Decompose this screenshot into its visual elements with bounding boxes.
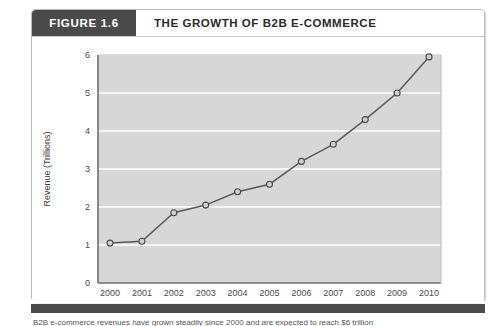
figure-caption-clipped: B2B e-commerce revenues have grown stead… <box>33 318 483 326</box>
data-point-marker <box>171 210 177 216</box>
figure-number-label: FIGURE 1.6 <box>49 17 119 29</box>
x-axis-tick-labels: 2000200120022003200420052006200720082009… <box>100 288 439 298</box>
x-tick-label: 2010 <box>419 288 439 298</box>
x-tick-label: 2009 <box>387 288 407 298</box>
x-tick-label: 2008 <box>355 288 375 298</box>
x-tick-label: 2002 <box>164 288 184 298</box>
data-point-marker <box>426 54 432 60</box>
figure-caption-text: B2B e-commerce revenues have grown stead… <box>33 318 483 326</box>
line-chart: 0123456 20002001200220032004200520062007… <box>32 37 484 303</box>
data-point-marker <box>139 238 145 244</box>
x-tick-label: 2006 <box>291 288 311 298</box>
data-point-marker <box>235 189 241 195</box>
y-tick-label: 6 <box>85 50 90 60</box>
y-tick-label: 1 <box>85 240 90 250</box>
y-axis-title: Revenue (Trillions) <box>42 131 52 206</box>
x-tick-label: 2001 <box>132 288 152 298</box>
chart-area: 0123456 20002001200220032004200520062007… <box>32 37 484 303</box>
data-point-marker <box>394 90 400 96</box>
x-tick-label: 2007 <box>323 288 343 298</box>
x-tick-label: 2004 <box>228 288 248 298</box>
figure-number-badge: FIGURE 1.6 <box>32 10 136 36</box>
figure-bottom-bar <box>31 304 485 313</box>
figure-title-container: THE GROWTH OF B2B E-COMMERCE <box>136 10 484 36</box>
y-tick-label: 0 <box>85 278 90 288</box>
x-tick-label: 2003 <box>196 288 216 298</box>
y-tick-label: 5 <box>85 88 90 98</box>
x-tick-label: 2000 <box>100 288 120 298</box>
y-tick-label: 4 <box>85 126 90 136</box>
data-point-marker <box>107 240 113 246</box>
data-point-marker <box>330 141 336 147</box>
data-point-marker <box>203 202 209 208</box>
figure-header: FIGURE 1.6 THE GROWTH OF B2B E-COMMERCE <box>32 10 484 36</box>
y-axis-tick-labels: 0123456 <box>85 50 90 288</box>
x-axis-title: Year <box>427 301 445 303</box>
x-tick-label: 2005 <box>259 288 279 298</box>
y-tick-label: 3 <box>85 164 90 174</box>
data-point-marker <box>267 181 273 187</box>
data-point-marker <box>298 158 304 164</box>
data-point-marker <box>362 117 368 123</box>
figure-card: FIGURE 1.6 THE GROWTH OF B2B E-COMMERCE … <box>31 9 485 302</box>
figure-title: THE GROWTH OF B2B E-COMMERCE <box>154 17 376 29</box>
y-tick-label: 2 <box>85 202 90 212</box>
